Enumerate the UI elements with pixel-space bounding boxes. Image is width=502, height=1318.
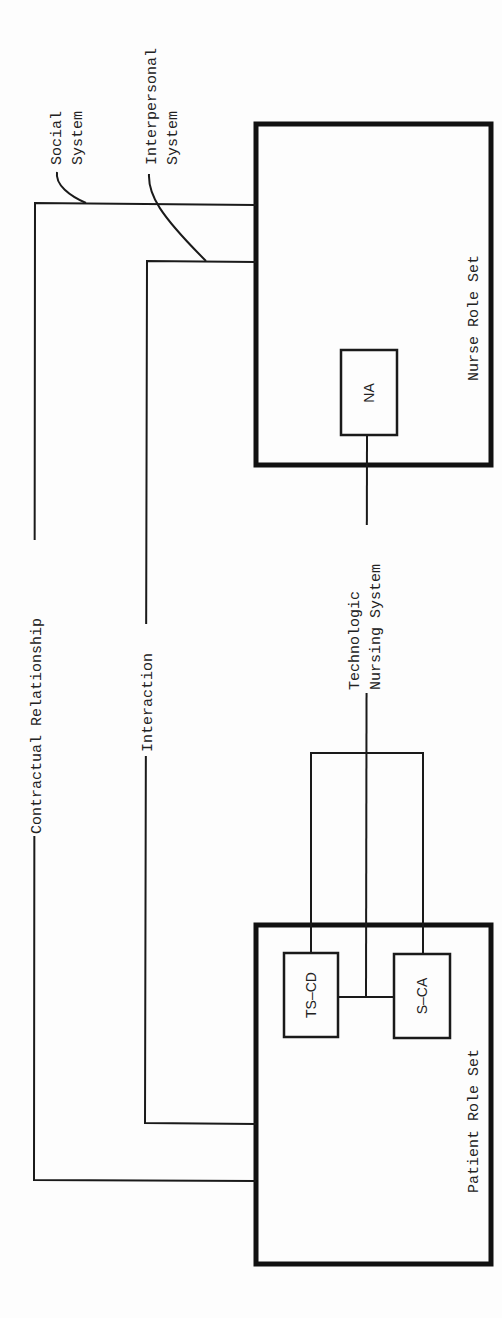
interaction-line [145, 261, 256, 1124]
social-system-label-line1: Social [49, 111, 66, 165]
patient-role-set-box [256, 925, 491, 1264]
technologic-nursing-system-connector: Technologic Nursing System [311, 435, 423, 997]
interaction-label: Interaction [140, 653, 157, 752]
interpersonal-system-annotation: Interpersonal System [144, 48, 206, 261]
patient-role-set-label: Patient Role Set [466, 1049, 483, 1193]
interaction-connector: Interaction [135, 261, 256, 1124]
na-label: NA [361, 383, 377, 403]
interpersonal-system-label-line2: System [165, 111, 182, 165]
na-node: NA [341, 350, 397, 435]
ts-cd-label: TS–CD [303, 972, 319, 1018]
nurse-role-set-node: Nurse Role Set NA [256, 124, 491, 465]
technologic-main-line [366, 435, 367, 997]
contractual-relationship-label: Contractual Relationship [29, 618, 46, 834]
interpersonal-system-label-line1: Interpersonal [144, 48, 161, 165]
technologic-label-line2: Nursing System [368, 564, 385, 690]
ts-cd-node: TS–CD [284, 953, 338, 1037]
social-system-label-line2: System [70, 111, 87, 165]
nursing-systems-diagram: Nurse Role Set NA Patient Role Set TS–CD… [0, 0, 502, 1318]
nurse-role-set-box [256, 124, 491, 465]
social-system-leader [57, 172, 86, 203]
s-ca-label: S–CA [414, 977, 430, 1014]
nurse-role-set-label: Nurse Role Set [466, 255, 483, 381]
technologic-label-line1: Technologic [347, 591, 364, 690]
interpersonal-system-leader [149, 174, 206, 261]
social-system-annotation: Social System [49, 111, 87, 203]
patient-role-set-node: Patient Role Set TS–CD S–CA [256, 925, 491, 1264]
s-ca-node: S–CA [394, 954, 450, 1038]
